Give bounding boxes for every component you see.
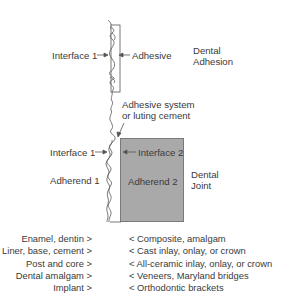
adherend2-examples-list: < Composite, amalgam < Cast inlay, onlay… [129,233,272,294]
interface1-top-label: Interface 1 [52,50,97,61]
dental-joint-label-2: Joint [191,180,211,191]
dental-adhesion-label-2: Adhesion [193,56,233,67]
dental-adhesion-label-1: Dental [193,45,221,56]
adhesive-system-label-1: Adhesive system [122,99,195,110]
list-item: < Orthodontic brackets [129,282,272,294]
list-item: < Cast inlay, onlay, or crown [129,245,272,257]
adherend1-label: Adherend 1 [50,175,100,186]
adhesive-label: Adhesive [132,50,171,61]
list-item: Implant > [2,282,92,294]
adherend1-examples-list: Enamel, dentin > Liner, base, cement > P… [2,233,92,294]
adhesive-system-label-2: or luting cement [122,110,190,121]
adhesive-system-arrow [117,123,124,137]
interface1-bottom-arrow [95,150,107,154]
list-item: Liner, base, cement > [2,245,92,257]
list-item: Dental amalgam > [2,270,92,282]
list-item: Enamel, dentin > [2,233,92,245]
list-item: < All-ceramic inlay, onlay, or crown [129,258,272,270]
interface1-top-arrow [97,53,108,57]
list-item: < Veneers, Maryland bridges [129,270,272,282]
list-item: < Composite, amalgam [129,233,272,245]
adhesive-arrow [119,53,130,57]
list-item: Post and core > [2,258,92,270]
adhesive-layer-illustration [108,20,120,137]
adherend2-label: Adherend 2 [128,176,178,187]
dental-joint-label-1: Dental [191,169,219,180]
interface1-bottom-label: Interface 1 [50,147,95,158]
interface2-label: Interface 2 [138,147,183,158]
